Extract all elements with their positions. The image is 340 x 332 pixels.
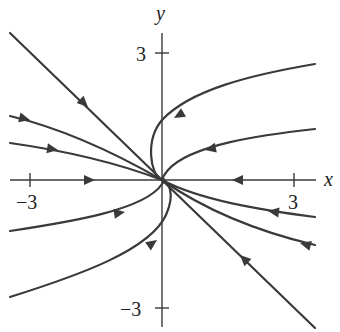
arrow-icon — [84, 175, 95, 185]
arrow-icon — [46, 143, 58, 155]
arrow-icon — [299, 238, 312, 251]
y-tick-label-neg3: −3 — [120, 298, 141, 320]
trajectory-left-upper-2 — [10, 143, 162, 180]
trajectory-right-upper-2 — [162, 129, 315, 180]
trajectory-left-upper-1 — [10, 116, 162, 180]
arrow-icon — [267, 206, 279, 217]
x-tick-label-3: 3 — [288, 191, 298, 213]
arrow-icon — [18, 112, 31, 124]
y-tick-label-3: 3 — [136, 43, 146, 65]
y-axis-label: y — [154, 2, 165, 25]
arrow-icon — [232, 175, 243, 185]
x-axis-label: x — [323, 168, 333, 190]
x-tick-label-neg3: −3 — [16, 191, 37, 213]
phase-portrait: x y −3 3 3 −3 — [0, 0, 340, 332]
